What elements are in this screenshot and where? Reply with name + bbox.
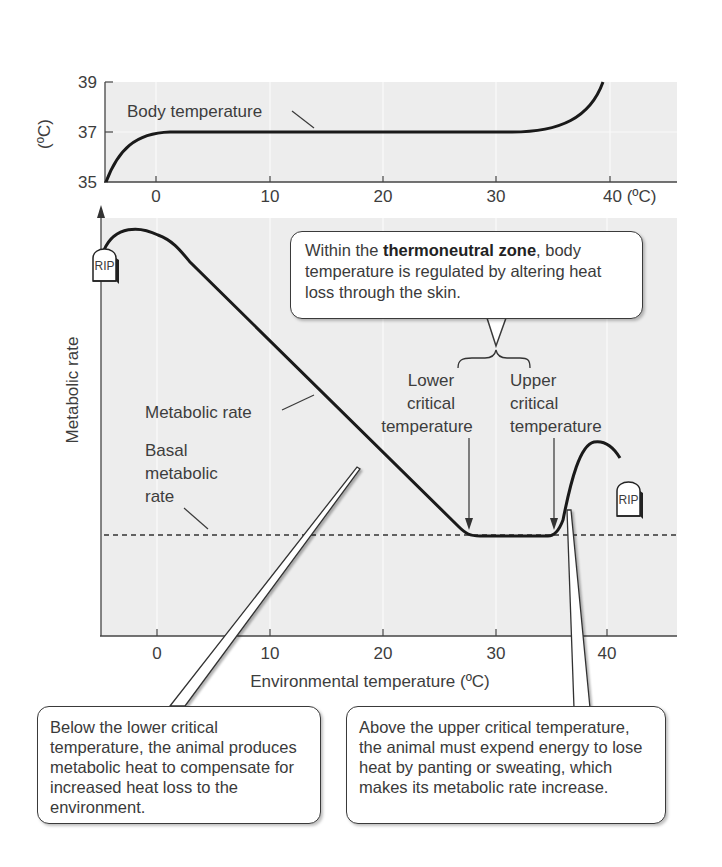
top-y-tick-37: 37	[78, 123, 97, 142]
below-critical-text: Below the lower critical temperature, th…	[50, 718, 297, 816]
upper-critical-label-1: Upper	[510, 371, 557, 390]
svg-text:RIP: RIP	[618, 493, 638, 507]
above-critical-text: Above the upper critical temperature, th…	[359, 718, 642, 796]
bottom-x-axis-label: Environmental temperature (ºC)	[250, 672, 490, 691]
body-temperature-label: Body temperature	[127, 102, 262, 121]
bottom-x-tick-10: 10	[261, 644, 280, 663]
y-axis-arrow-icon	[97, 205, 105, 218]
top-x-tick-0: 0	[151, 187, 160, 206]
upper-critical-label-2: critical	[510, 394, 558, 413]
top-x-tick-30: 30	[487, 187, 506, 206]
metabolic-rate-label: Metabolic rate	[145, 403, 252, 422]
body-temperature-chart: 39 37 35 (ºC) 0 10 20 30 40 (ºC) Body te…	[35, 73, 677, 206]
top-y-axis-label: (ºC)	[35, 119, 54, 149]
upper-critical-label-3: temperature	[510, 417, 602, 436]
bottom-y-axis-label: Metabolic rate	[63, 337, 82, 444]
top-x-tick-40: 40 (ºC)	[603, 187, 656, 206]
thermoneutral-callout: Within the thermoneutral zone, body temp…	[290, 231, 643, 319]
top-x-tick-20: 20	[374, 187, 393, 206]
basal-label-line-3: rate	[145, 487, 174, 506]
bottom-x-tick-30: 30	[487, 644, 506, 663]
below-critical-callout: Below the lower critical temperature, th…	[37, 706, 321, 824]
thermoneutral-prefix: Within the	[305, 241, 383, 259]
lower-critical-label-3: temperature	[381, 417, 473, 436]
bottom-x-tick-20: 20	[374, 644, 393, 663]
lower-critical-label-2: critical	[407, 394, 455, 413]
above-critical-callout: Above the upper critical temperature, th…	[346, 706, 666, 824]
rip-tombstone-left-icon: RIP	[93, 249, 119, 284]
basal-label-line-2: metabolic	[145, 464, 218, 483]
bottom-x-tick-0: 0	[152, 644, 161, 663]
top-y-tick-39: 39	[78, 73, 97, 92]
thermoneutral-suffix: ,	[536, 241, 541, 259]
top-x-tick-10: 10	[261, 187, 280, 206]
lower-critical-label-1: Lower	[408, 371, 455, 390]
top-y-tick-35: 35	[78, 173, 97, 192]
thermoneutral-zone-term: thermoneutral zone	[383, 241, 536, 259]
svg-text:RIP: RIP	[94, 259, 114, 273]
rip-tombstone-right-icon: RIP	[617, 482, 643, 519]
bottom-x-tick-40: 40	[598, 644, 617, 663]
basal-label-line-1: Basal	[145, 441, 188, 460]
